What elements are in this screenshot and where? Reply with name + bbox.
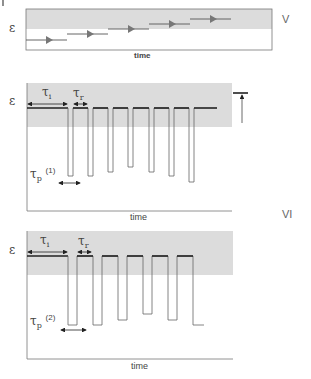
tau-i-label: τi — [42, 86, 51, 101]
tau-i-label: τi — [40, 234, 49, 249]
panel-vi-bottom — [27, 231, 233, 359]
tau-r-label: τr — [78, 235, 88, 250]
panel-roman-label: V — [282, 14, 289, 25]
epsilon-label: ε — [9, 95, 15, 107]
x-axis-label: time — [131, 362, 148, 371]
x-axis-label: time — [134, 52, 150, 60]
gray-band — [26, 9, 272, 29]
x-axis-label: time — [130, 213, 147, 222]
tau-p-label: τp (1) — [30, 167, 55, 183]
tau-p-label: τp (2) — [30, 314, 55, 330]
triangle-icon — [46, 36, 53, 44]
panel-v — [26, 9, 272, 50]
tau-r-label: τr — [73, 87, 83, 102]
panel-roman-label: VI — [282, 209, 292, 220]
gray-band — [27, 83, 232, 127]
triangle-icon — [87, 30, 94, 38]
epsilon-label: ε — [9, 244, 15, 256]
panel-vi-top — [27, 83, 248, 211]
gray-band — [27, 231, 233, 275]
epsilon-label: ε — [9, 22, 15, 34]
